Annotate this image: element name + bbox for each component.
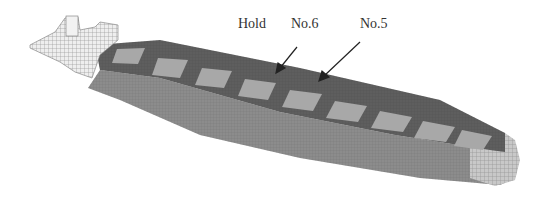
label-hold: Hold: [238, 16, 266, 32]
funnel: [66, 16, 78, 36]
arrow-no5: [324, 42, 360, 76]
label-no5: No.5: [360, 16, 388, 32]
ship-model-figure: [0, 0, 550, 203]
label-no6: No.6: [291, 16, 319, 32]
arrow-no6: [280, 47, 297, 68]
